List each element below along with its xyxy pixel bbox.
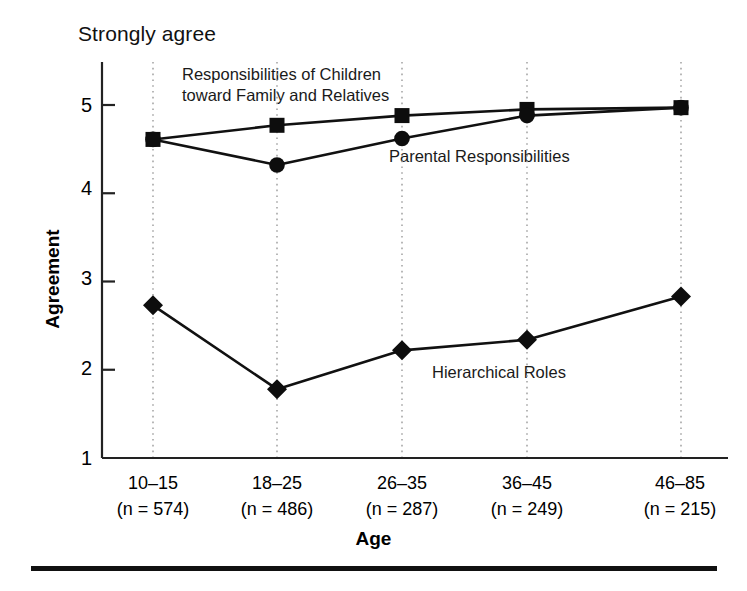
marker-diamond-2-3 xyxy=(517,330,537,350)
marker-circle-1-3 xyxy=(519,108,535,124)
plot-area xyxy=(0,0,747,591)
series-line-1 xyxy=(153,108,681,165)
marker-diamond-2-1 xyxy=(267,379,287,399)
marker-diamond-2-2 xyxy=(392,340,412,360)
chart-figure: Strongly agree Agreement Age 5 4 3 2 1 1… xyxy=(0,0,747,591)
marker-diamond-2-0 xyxy=(143,295,163,315)
marker-square-0-1 xyxy=(270,118,285,133)
marker-circle-1-0 xyxy=(145,132,161,148)
marker-circle-1-1 xyxy=(269,157,285,173)
marker-square-0-2 xyxy=(395,108,410,123)
marker-circle-1-2 xyxy=(394,131,410,147)
bottom-rule-divider xyxy=(31,566,717,571)
series-line-2 xyxy=(153,297,681,390)
marker-circle-1-4 xyxy=(673,100,689,116)
marker-diamond-2-4 xyxy=(671,287,691,307)
